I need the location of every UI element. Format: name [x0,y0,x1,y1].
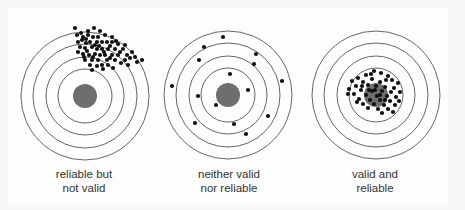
shot-mark [360,84,364,88]
shot-mark [359,88,363,92]
shot-mark [379,71,383,75]
shot-mark [197,58,201,62]
shot-mark [105,40,109,44]
shot-mark [367,88,371,92]
target-diagram: reliable but not valid neither valid nor… [0,0,465,210]
shot-mark [352,92,356,96]
shot-mark [355,100,359,104]
label-valid-reliable-line1: valid and [352,168,398,180]
shot-mark [135,60,139,64]
shot-mark [373,88,377,92]
shot-mark [378,98,382,102]
shot-mark [390,78,394,82]
shot-mark [366,83,370,87]
shot-mark [80,38,84,42]
shot-mark [101,67,105,71]
shot-mark [376,107,380,111]
shot-mark [350,79,354,83]
shot-mark [84,41,88,45]
shot-mark [374,84,378,88]
shot-mark [119,61,123,65]
shot-mark [346,92,350,96]
shot-mark [382,103,386,107]
bullseye [216,83,240,107]
label-neither-line1: neither valid [198,168,260,180]
shot-mark [76,50,80,54]
shot-mark [214,103,218,107]
shot-mark [130,50,134,54]
shot-mark [123,43,127,47]
shot-mark [96,58,100,62]
shot-mark [123,58,127,62]
shot-mark [368,98,372,102]
shot-mark [391,110,395,114]
shot-mark [108,56,112,60]
shot-mark [90,68,94,72]
shot-mark [114,39,118,43]
shot-mark [232,122,236,126]
shot-mark [100,40,104,44]
shot-mark [221,35,225,39]
shot-mark [347,87,351,91]
shot-mark [394,95,398,99]
shot-mark [100,63,104,67]
shot-mark [246,88,250,92]
shot-mark [380,111,384,115]
shot-mark [125,53,129,57]
shot-mark [193,121,197,125]
shot-mark [126,63,130,67]
target-valid-and-reliable: valid and reliable [312,31,440,194]
shot-mark [386,107,390,111]
shot-mark [128,56,132,60]
shot-mark [86,29,90,33]
shot-mark [266,114,270,118]
shot-mark [102,50,106,54]
shot-mark [383,85,387,89]
label-reliable-not-valid-line1: reliable but [56,168,113,180]
shot-mark [75,33,79,37]
shot-mark [378,80,382,84]
label-neither-line2: nor reliable [201,182,258,194]
shot-mark [110,40,114,44]
bullseye [73,84,97,108]
shot-mark [133,55,137,59]
shot-mark [393,103,397,107]
shot-mark [85,49,89,53]
shot-mark [96,35,100,39]
shot-mark [372,69,376,73]
shot-mark [98,29,102,33]
shot-mark [386,74,390,78]
shot-mark [389,90,393,94]
shot-mark [244,132,248,136]
shot-mark [196,94,200,98]
shot-mark [397,99,401,103]
shot-mark [95,64,99,68]
shot-mark [385,94,389,98]
shot-mark [228,72,232,76]
shot-mark [93,43,97,47]
shot-mark [252,62,256,66]
shot-mark [103,33,107,37]
shot-mark [108,44,112,48]
shot-mark [384,78,388,82]
shot-mark [366,106,370,110]
label-reliable-not-valid-line2: not valid [63,182,106,194]
shot-mark [361,102,365,106]
shot-mark [372,102,376,106]
shot-mark [73,26,77,30]
shot-mark [111,66,115,70]
shot-mark [106,63,110,67]
shot-mark [113,58,117,62]
shot-mark [364,73,368,77]
shot-mark [121,47,125,51]
shot-mark [86,33,90,37]
shot-mark [364,93,368,97]
shot-mark [82,55,86,59]
label-valid-reliable-line2: reliable [356,182,393,194]
figure: reliable but not valid neither valid nor… [0,0,465,210]
shot-mark [91,55,95,59]
shot-mark [98,53,102,57]
shot-mark [92,26,96,30]
target-reliable-not-valid: reliable but not valid [21,26,149,194]
shot-mark [388,99,392,103]
